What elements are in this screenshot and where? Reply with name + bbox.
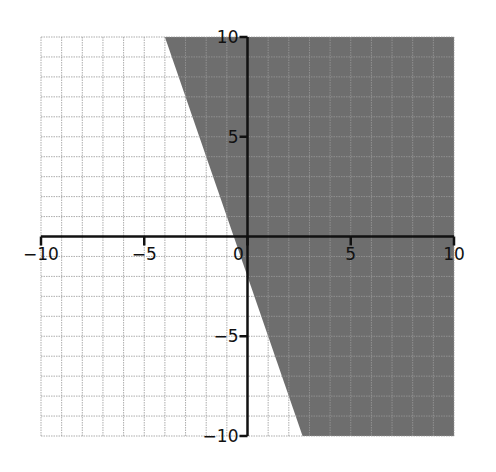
x-tick-label: 0 [233, 244, 244, 264]
inequality-graph: −10−50510−10−5510 [0, 0, 496, 472]
y-tick-label: −10 [203, 426, 239, 446]
y-tick-label: 10 [217, 27, 239, 47]
y-tick-label: −5 [213, 326, 238, 346]
x-tick-label: 10 [443, 244, 465, 264]
y-tick-label: 5 [228, 127, 239, 147]
x-tick-label: −10 [23, 244, 59, 264]
x-tick-label: 5 [345, 244, 356, 264]
plot-area: −10−50510−10−5510 [23, 27, 465, 446]
x-tick-label: −5 [132, 244, 157, 264]
